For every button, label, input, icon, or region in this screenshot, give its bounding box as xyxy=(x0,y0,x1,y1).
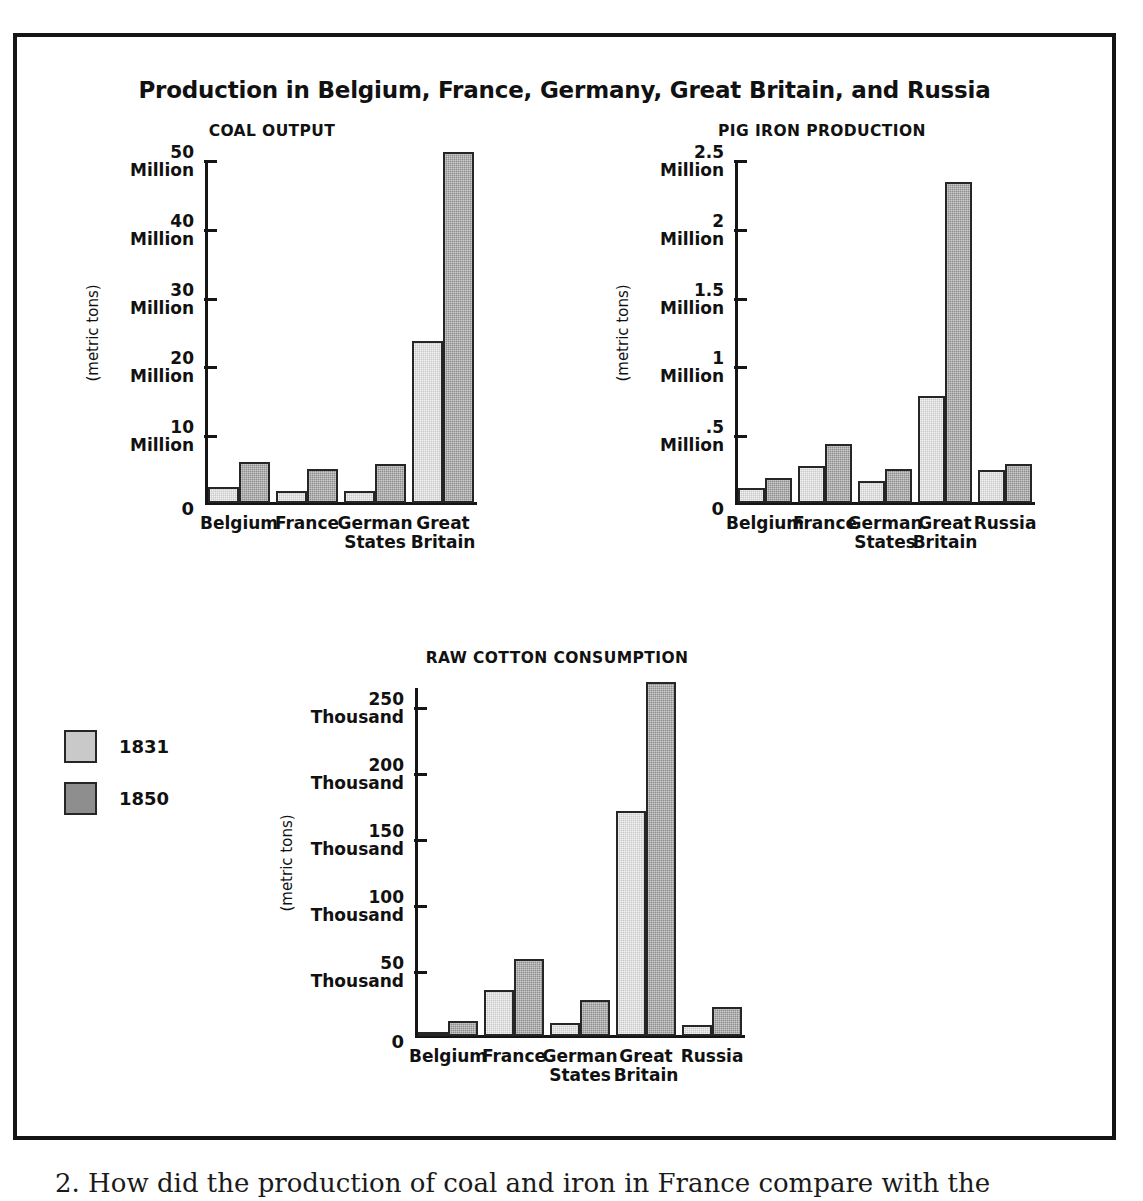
y-axis-line xyxy=(735,161,738,505)
y-axis-tick-label: 200Thousand xyxy=(311,756,404,792)
bar-1850-german-states xyxy=(580,1000,610,1036)
plot-area-raw-cotton-consumption: (metric tons)050Thousand100Thousand150Th… xyxy=(415,688,745,1038)
y-axis-tick-label: 40Million xyxy=(130,212,194,248)
bar-1831-russia xyxy=(978,470,1005,503)
chart-panel-coal-output: COAL OUTPUT (metric tons)010Million20Mil… xyxy=(57,122,487,622)
y-axis-tick-label: 50Thousand xyxy=(311,954,404,990)
y-axis-tick-label: 0 xyxy=(711,499,724,518)
y-axis-tick-label: 50Million xyxy=(130,143,194,179)
legend-item-1850[interactable]: 1850 xyxy=(64,772,169,824)
y-axis-tick xyxy=(204,160,217,163)
plot-area-pig-iron-production: (metric tons)0.5Million1Million1.5Millio… xyxy=(735,161,1035,505)
legend-label-1850: 1850 xyxy=(119,788,169,809)
y-axis-tick-label: 1.5Million xyxy=(660,281,724,317)
y-axis-tick-label: 100Thousand xyxy=(311,888,404,924)
bar-1850-great-britain xyxy=(646,682,676,1036)
x-axis-category-label: Belgium xyxy=(409,1047,487,1066)
y-axis-line xyxy=(415,688,418,1038)
y-axis-tick-label: .5Million xyxy=(660,418,724,454)
y-axis-tick-label: 250Thousand xyxy=(311,690,404,726)
page-caption: 2. How did the production of coal and ir… xyxy=(55,1168,1115,1198)
y-axis-tick-label: 0 xyxy=(181,499,194,518)
figure-title: Production in Belgium, France, Germany, … xyxy=(17,77,1112,103)
x-axis-category-label: Russia xyxy=(681,1047,744,1066)
bar-1850-russia xyxy=(712,1007,742,1036)
y-axis-line xyxy=(205,161,208,505)
bar-1831-great-britain xyxy=(412,341,443,503)
y-axis-tick xyxy=(734,435,747,438)
chart-title-raw-cotton-consumption: RAW COTTON CONSUMPTION xyxy=(247,649,867,667)
bar-1850-russia xyxy=(1005,464,1032,503)
y-axis-tick xyxy=(414,905,427,908)
bar-1831-belgium xyxy=(738,488,765,503)
y-axis-tick xyxy=(204,298,217,301)
x-axis-category-label: France xyxy=(275,514,339,533)
plot-area-coal-output: (metric tons)010Million20Million30Millio… xyxy=(205,161,477,505)
bar-1850-belgium xyxy=(239,462,270,503)
bar-1831-german-states xyxy=(344,491,375,503)
bar-1850-german-states xyxy=(885,469,912,503)
x-axis-category-label: German States xyxy=(542,1047,617,1085)
figure-frame: Production in Belgium, France, Germany, … xyxy=(13,33,1116,1140)
x-axis-category-label: Great Britain xyxy=(913,514,978,552)
bar-1850-france xyxy=(307,469,338,503)
bar-1831-russia xyxy=(682,1025,712,1036)
bar-1850-great-britain xyxy=(945,182,972,503)
bar-1850-france xyxy=(825,444,852,503)
y-axis-tick-label: 2.5Million xyxy=(660,143,724,179)
bar-1850-belgium xyxy=(448,1021,478,1036)
bar-1831-great-britain xyxy=(616,811,646,1036)
y-axis-tick xyxy=(734,298,747,301)
bar-1831-german-states xyxy=(550,1023,580,1036)
bar-1831-great-britain xyxy=(918,396,945,503)
bar-1831-belgium xyxy=(208,487,239,503)
y-axis-tick xyxy=(204,229,217,232)
chart-title-coal-output: COAL OUTPUT xyxy=(57,122,487,140)
y-axis-tick-label: 20Million xyxy=(130,349,194,385)
y-axis-tick xyxy=(414,971,427,974)
legend-swatch-1850 xyxy=(64,782,97,815)
legend-swatch-1831 xyxy=(64,730,97,763)
x-axis-category-label: Great Britain xyxy=(614,1047,679,1085)
bar-1831-belgium xyxy=(418,1032,448,1036)
y-axis-tick xyxy=(204,366,217,369)
legend-item-1831[interactable]: 1831 xyxy=(64,720,169,772)
y-axis-label: (metric tons) xyxy=(84,284,102,381)
legend-label-1831: 1831 xyxy=(119,736,169,757)
x-axis-category-label: German States xyxy=(847,514,922,552)
chart-panel-pig-iron-production: PIG IRON PRODUCTION (metric tons)0.5Mill… xyxy=(587,122,1057,622)
y-axis-tick xyxy=(734,160,747,163)
y-axis-label: (metric tons) xyxy=(614,284,632,381)
bar-1831-german-states xyxy=(858,481,885,503)
y-axis-tick-label: 1Million xyxy=(660,349,724,385)
chart-title-pig-iron-production: PIG IRON PRODUCTION xyxy=(587,122,1057,140)
y-axis-tick xyxy=(414,773,427,776)
bar-1850-great-britain xyxy=(443,152,474,503)
y-axis-tick xyxy=(414,839,427,842)
y-axis-tick-label: 10Million xyxy=(130,418,194,454)
x-axis-category-label: German States xyxy=(337,514,412,552)
y-axis-tick-label: 0 xyxy=(391,1032,404,1051)
x-axis-category-label: Belgium xyxy=(200,514,278,533)
y-axis-tick-label: 2Million xyxy=(660,212,724,248)
bar-1831-france xyxy=(798,466,825,503)
bar-1831-france xyxy=(276,491,307,503)
y-axis-label: (metric tons) xyxy=(278,814,296,911)
y-axis-tick-label: 150Thousand xyxy=(311,822,404,858)
y-axis-tick xyxy=(734,229,747,232)
y-axis-tick-label: 30Million xyxy=(130,281,194,317)
x-axis-category-label: Russia xyxy=(974,514,1037,533)
x-axis-category-label: France xyxy=(482,1047,546,1066)
bar-1850-german-states xyxy=(375,464,406,503)
y-axis-tick xyxy=(204,435,217,438)
chart-panel-raw-cotton-consumption: RAW COTTON CONSUMPTION (metric tons)050T… xyxy=(247,649,867,1119)
bar-1850-belgium xyxy=(765,478,792,503)
bar-1831-france xyxy=(484,990,514,1036)
x-axis-category-label: Great Britain xyxy=(411,514,476,552)
y-axis-tick xyxy=(734,366,747,369)
bar-1850-france xyxy=(514,959,544,1036)
legend: 1831 1850 xyxy=(64,720,169,824)
y-axis-tick xyxy=(414,707,427,710)
